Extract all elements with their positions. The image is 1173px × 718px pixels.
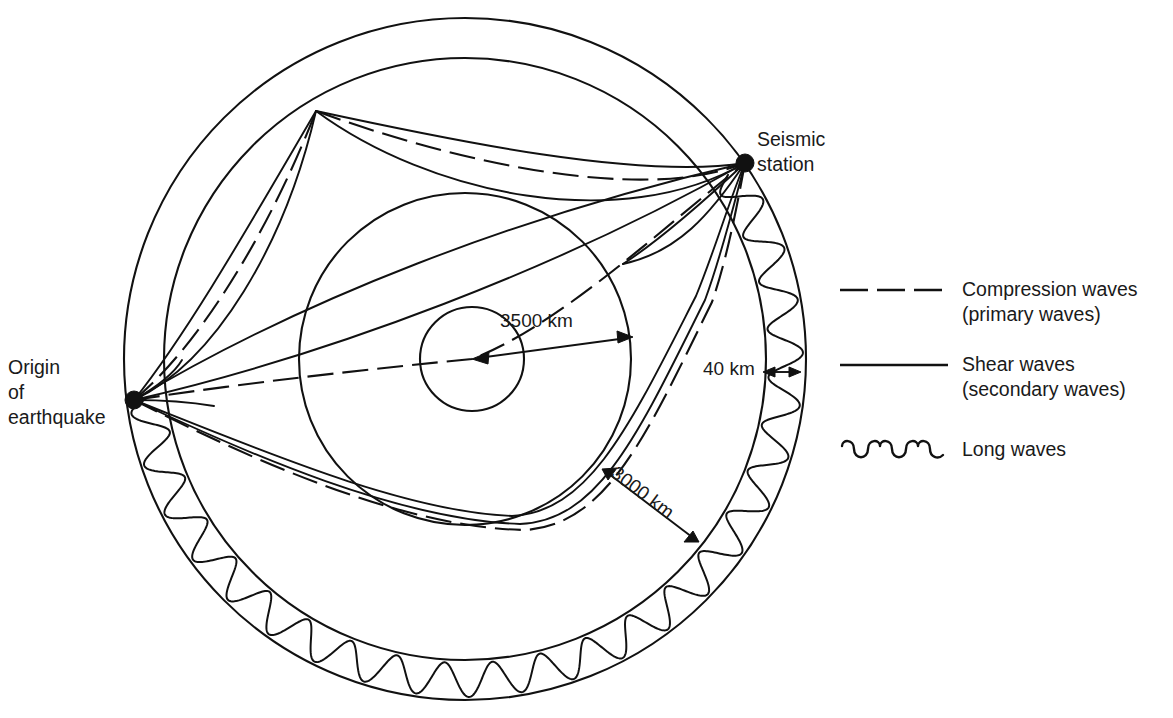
legend-item-shear-waves: Shear waves (secondary waves) — [838, 352, 1126, 402]
wavy-line-icon — [838, 437, 950, 463]
legend-label-shear-waves: Shear waves (secondary waves) — [950, 352, 1126, 402]
shear-wave-deep-secondary — [134, 163, 745, 516]
legend-item-compression-waves: Compression waves (primary waves) — [838, 277, 1138, 327]
shear-wave-chord — [134, 163, 745, 400]
seismic-station-marker — [736, 154, 754, 172]
compression-wave-upper — [134, 111, 316, 400]
mantle-radius-label: 3500 km — [500, 310, 573, 332]
diagram-canvas: Origin of earthquake Seismic station 350… — [0, 0, 1173, 718]
earthquake-origin-marker — [125, 391, 143, 409]
shear-wave-upper-inner — [134, 111, 316, 400]
legend-label-long-waves: Long waves — [950, 437, 1066, 462]
solid-line-icon — [838, 352, 950, 378]
dashed-line-icon — [838, 277, 950, 303]
origin-label: Origin of earthquake — [8, 355, 106, 430]
shear-wave-upper-outer — [134, 111, 316, 400]
shear-wave-deep — [134, 163, 745, 524]
compression-wave-deep — [134, 163, 745, 530]
legend-label-compression-waves: Compression waves (primary waves) — [950, 277, 1138, 327]
compression-wave-reflected — [316, 111, 745, 180]
crust-thickness-label: 40 km — [703, 358, 755, 380]
legend-item-long-waves: Long waves — [838, 437, 1066, 463]
shear-wave-direct-shallow — [134, 163, 745, 400]
station-label: Seismic station — [757, 127, 825, 177]
shear-wave-reflected-outer — [316, 111, 745, 167]
compression-wave-core — [134, 163, 745, 400]
